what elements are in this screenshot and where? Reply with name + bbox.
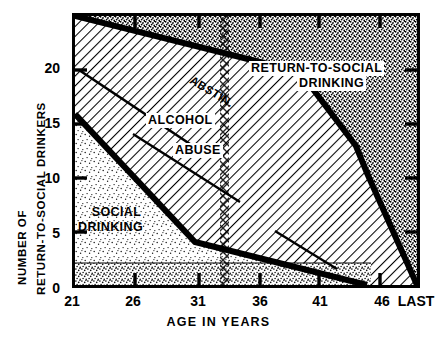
y-tick-label-10: 10 (34, 171, 60, 185)
y-tick-label-0: 0 (34, 281, 60, 295)
annotation-social-line2: DRINKING (76, 220, 145, 235)
x-tick-label-21: 21 (58, 294, 86, 308)
x-axis-title: AGE IN YEARS (0, 315, 437, 329)
x-tick-label-41: 41 (306, 294, 334, 308)
x-tick-label-last: LAST (396, 294, 436, 308)
annotation-abuse: ABUSE (173, 143, 223, 158)
annotation-alcohol-text: ALCOHOL (146, 113, 215, 128)
annotation-alcohol: ALCOHOL (146, 113, 215, 128)
chart-figure: NUMBER OF RETURN-TO-SOCIAL DRINKERS 20 1… (0, 0, 437, 339)
plot-area (72, 13, 420, 288)
x-tick-label-31: 31 (184, 294, 212, 308)
annotation-abuse-text: ABUSE (173, 143, 223, 158)
chart-svg (75, 16, 417, 285)
annotation-social-drinking: SOCIAL DRINKING (88, 205, 145, 235)
annotation-rts-line1: RETURN-TO-SOCIAL (249, 61, 384, 76)
annotation-rts-line2: DRINKING (297, 76, 366, 91)
y-axis-title: NUMBER OF RETURN-TO-SOCIAL DRINKERS (0, 0, 40, 300)
y-axis-title-line2: RETURN-TO-SOCIAL DRINKERS (35, 102, 47, 295)
x-tick-label-26: 26 (119, 294, 147, 308)
y-tick-label-5: 5 (34, 226, 60, 240)
annotation-return-to-social-drinking: RETURN-TO-SOCIAL DRINKING (249, 61, 384, 91)
y-axis-title-line1: NUMBER OF (16, 210, 28, 285)
annotation-social-line1: SOCIAL (90, 205, 144, 220)
x-tick-label-46: 46 (368, 294, 396, 308)
y-tick-label-15: 15 (34, 116, 60, 130)
y-tick-label-20: 20 (34, 61, 60, 75)
x-tick-label-36: 36 (246, 294, 274, 308)
